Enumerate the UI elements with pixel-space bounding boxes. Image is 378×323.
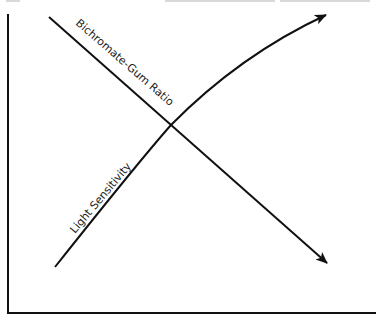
bichromate-gum-ratio-line	[49, 17, 327, 263]
diagram: Bichromate-Gum Ratio Light Sensitivity	[0, 0, 378, 323]
clipped-page-header	[6, 0, 370, 2]
light-sensitivity-label: Light Sensitivity	[67, 160, 134, 236]
bichromate-gum-ratio-label: Bichromate-Gum Ratio	[73, 16, 176, 108]
